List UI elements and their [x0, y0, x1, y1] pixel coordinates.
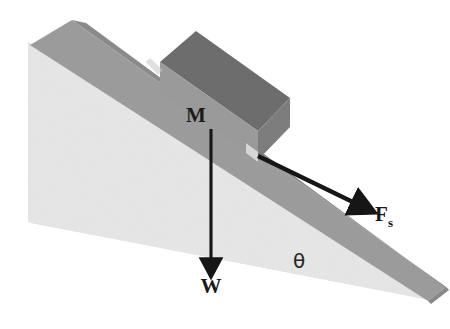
label-weight-w: W: [201, 274, 222, 298]
inclined-plane-diagram: M W F s θ: [0, 0, 450, 329]
label-mass-m: M: [186, 103, 206, 127]
label-friction-force-subscript-s: s: [388, 215, 393, 230]
label-angle-theta: θ: [293, 249, 305, 273]
label-friction-force-f: F: [375, 202, 388, 226]
diagram-canvas: M W F s θ: [0, 0, 450, 329]
